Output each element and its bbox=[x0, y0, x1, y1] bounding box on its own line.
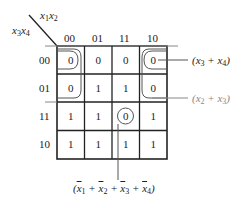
cell-r2-c0: 1 bbox=[57, 102, 85, 130]
expression-not-x1-x2-x3-x4: (x1 + x2 + x3 + x4) bbox=[73, 182, 155, 196]
row-header-00: 00 bbox=[39, 55, 50, 66]
row-variables-label: x3x4 bbox=[12, 25, 30, 38]
expression-x2-plus-x3: (x2 + x3) bbox=[192, 92, 230, 106]
cell-r3-c3: 1 bbox=[140, 130, 168, 158]
cell-r1-c0: 0 bbox=[57, 74, 85, 102]
cell-r1-c3: 0 bbox=[140, 74, 168, 102]
cell-r0-c2: 0 bbox=[112, 46, 140, 74]
cell-r3-c1: 1 bbox=[85, 130, 113, 158]
expression-x3-plus-x4: (x3 + x4) bbox=[192, 54, 230, 68]
row-header-10: 10 bbox=[39, 139, 50, 150]
cell-r0-c1: 0 bbox=[85, 46, 113, 74]
cell-r3-c0: 1 bbox=[57, 130, 85, 158]
column-header-10: 10 bbox=[147, 33, 158, 44]
cell-r3-c2: 1 bbox=[112, 130, 140, 158]
column-header-00: 00 bbox=[64, 33, 75, 44]
cell-r2-c3: 1 bbox=[140, 102, 168, 130]
cell-r2-c2: 0 bbox=[112, 102, 140, 130]
cell-r0-c3: 0 bbox=[140, 46, 168, 74]
cell-r1-c2: 1 bbox=[112, 74, 140, 102]
cell-r1-c1: 1 bbox=[85, 74, 113, 102]
column-header-01: 01 bbox=[92, 33, 103, 44]
column-variables-label: x1x2 bbox=[40, 10, 58, 23]
column-header-11: 11 bbox=[119, 33, 130, 44]
cell-r0-c0: 0 bbox=[57, 46, 85, 74]
row-header-01: 01 bbox=[39, 83, 50, 94]
row-header-11: 11 bbox=[39, 111, 50, 122]
cell-r2-c1: 1 bbox=[85, 102, 113, 130]
